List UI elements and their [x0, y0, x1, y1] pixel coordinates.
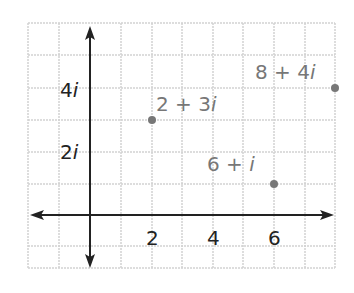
- point-8-4i: [331, 84, 339, 92]
- point-label-8-4i: 8 + 4i: [255, 62, 315, 82]
- point-2-3i: [148, 116, 156, 124]
- x-tick-6: 6: [268, 228, 281, 248]
- x-tick-4: 4: [207, 228, 220, 248]
- point-6-i: [270, 180, 278, 188]
- point-label-6-i: 6 + i: [207, 154, 255, 174]
- y-tick-2i: 2i: [60, 142, 78, 162]
- x-tick-2: 2: [146, 228, 159, 248]
- point-label-2-3i: 2 + 3i: [156, 94, 216, 114]
- y-tick-4i: 4i: [60, 80, 78, 100]
- complex-plane-chart: [0, 0, 354, 293]
